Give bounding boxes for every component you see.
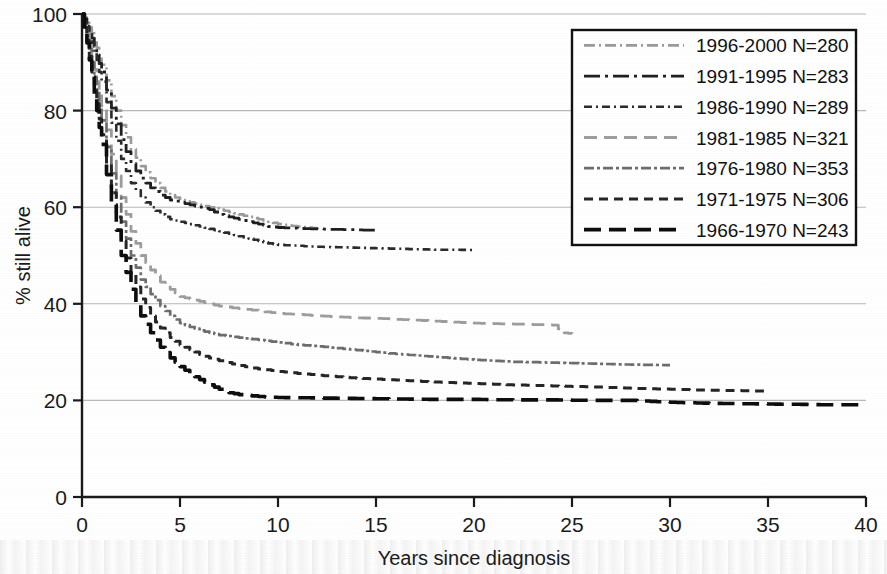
y-axis-title: % still alive <box>12 206 34 305</box>
x-tick-label: 30 <box>658 513 681 536</box>
y-axis: 020406080100 <box>32 3 82 509</box>
y-tick-label: 100 <box>32 3 67 26</box>
y-tick-label: 80 <box>44 100 67 123</box>
legend-label-1991-1995: 1991-1995 N=283 <box>696 66 849 87</box>
legend-label-1981-1985: 1981-1985 N=321 <box>696 128 849 149</box>
x-tick-label: 10 <box>266 513 289 536</box>
y-tick-label: 20 <box>44 389 67 412</box>
x-tick-label: 25 <box>560 513 583 536</box>
x-axis: 0510152025303540 <box>76 497 878 536</box>
legend: 1996-2000 N=2801991-1995 N=2831986-1990 … <box>572 30 856 245</box>
x-tick-label: 40 <box>854 513 877 536</box>
chart-canvas: 020406080100% still alive051015202530354… <box>0 0 887 574</box>
y-tick-label: 40 <box>44 293 67 316</box>
legend-label-1971-1975: 1971-1975 N=306 <box>696 189 849 210</box>
legend-label-1966-1970: 1966-1970 N=243 <box>696 220 849 241</box>
x-tick-label: 35 <box>756 513 779 536</box>
x-tick-label: 0 <box>76 513 88 536</box>
x-axis-title: Years since diagnosis <box>378 547 571 569</box>
curve-1986-1990 <box>82 14 474 250</box>
x-tick-label: 5 <box>174 513 186 536</box>
legend-label-1986-1990: 1986-1990 N=289 <box>696 97 849 118</box>
y-tick-label: 60 <box>44 196 67 219</box>
x-tick-label: 20 <box>462 513 485 536</box>
legend-label-1996-2000: 1996-2000 N=280 <box>696 35 849 56</box>
legend-label-1976-1980: 1976-1980 N=353 <box>696 158 849 179</box>
curve-1981-1985 <box>82 14 572 334</box>
x-tick-label: 15 <box>364 513 387 536</box>
y-tick-label: 0 <box>55 486 67 509</box>
survival-curve-chart: 020406080100% still alive051015202530354… <box>0 0 887 574</box>
